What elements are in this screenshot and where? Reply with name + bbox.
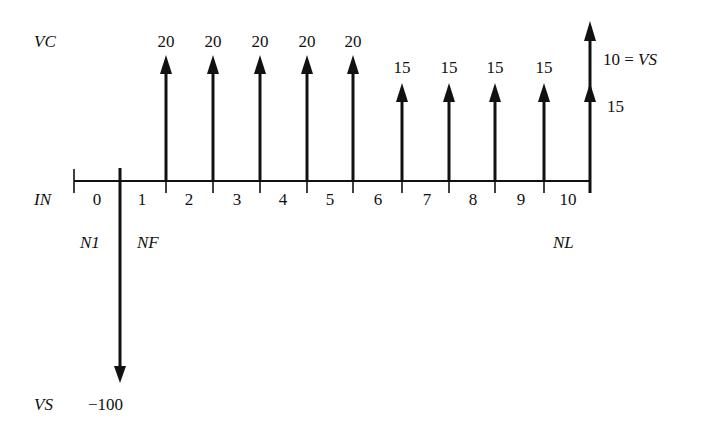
final-period-arrow [584, 21, 596, 193]
inflow-arrows-20 [166, 72, 353, 181]
arrowheads-15 [396, 83, 550, 102]
period-label: 6 [374, 191, 383, 208]
period-label: 4 [279, 191, 288, 208]
period-label: 0 [93, 191, 102, 208]
flow-label: 15 [394, 59, 411, 76]
vs-row-label: VS [34, 396, 53, 413]
flow-label: 20 [345, 33, 362, 50]
period-label: 8 [469, 191, 478, 208]
nf-label: NF [137, 234, 159, 251]
flow-label: 15 [487, 59, 504, 76]
investment-value: −100 [88, 396, 123, 413]
period-label: 9 [517, 191, 526, 208]
final-flow-label: 15 [607, 98, 624, 115]
arrowheads-20 [160, 55, 359, 74]
period-label: 1 [138, 191, 147, 208]
flow-label: 20 [299, 33, 316, 50]
salvage-text: 10 = VS [603, 50, 657, 69]
period-label: 3 [233, 191, 242, 208]
period-label: 5 [326, 191, 335, 208]
salvage-vs-symbol: VS [638, 50, 657, 69]
flow-label: 15 [536, 59, 553, 76]
vc-row-label: VC [34, 33, 56, 50]
inflow-arrows-15 [402, 100, 544, 181]
in-row-label: IN [34, 191, 51, 208]
flow-label: 20 [158, 33, 175, 50]
period-label: 10 [560, 191, 577, 208]
period-label: 2 [185, 191, 194, 208]
investment-arrow [114, 168, 126, 383]
period-label: 7 [423, 191, 432, 208]
salvage-label: 10 = VS [603, 51, 657, 68]
nl-label: NL [553, 234, 574, 251]
flow-label: 15 [441, 59, 458, 76]
flow-label: 20 [252, 33, 269, 50]
n1-label: N1 [80, 234, 100, 251]
flow-label: 20 [205, 33, 222, 50]
